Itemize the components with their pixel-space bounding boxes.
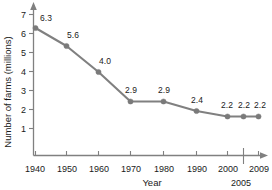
- x-tick-label-2009: 2009: [249, 164, 269, 174]
- x-tick-label-1990: 1990: [187, 164, 207, 174]
- data-point-1940: [33, 25, 38, 30]
- data-label-2009: 2.2: [254, 100, 266, 110]
- y-tick-label-3: 3: [21, 86, 26, 96]
- data-point-1960: [96, 69, 101, 74]
- y-tick-label-1: 1: [21, 124, 26, 134]
- data-point-2000: [225, 114, 230, 119]
- farms-line-chart: Number of farms (millions) 7 6 5 4 3 2 1: [0, 0, 272, 190]
- x-tick-label-1970: 1970: [121, 164, 141, 174]
- x-axis-title: Year: [142, 177, 161, 188]
- x-tick-label-2000: 2000: [218, 164, 238, 174]
- data-point-1950: [64, 43, 69, 48]
- x-tick-label-1960: 1960: [89, 164, 109, 174]
- data-point-1990: [194, 108, 199, 113]
- x-tick-label-2005: 2005: [231, 178, 251, 188]
- data-point-labels: 6.3 5.6 4.0 2.9 2.9 2.4 2.2 2.2 2.2: [40, 13, 266, 110]
- y-tick-label-5: 5: [21, 48, 26, 58]
- y-tick-label-2: 2: [21, 105, 26, 115]
- data-label-1950: 5.6: [67, 30, 79, 40]
- x-tick-label-1980: 1980: [154, 164, 174, 174]
- y-axis-title: Number of farms (millions): [2, 36, 13, 147]
- data-label-2005: 2.2: [238, 100, 250, 110]
- data-point-2005: [241, 114, 246, 119]
- y-tick-labels: 7 6 5 4 3 2 1: [21, 10, 26, 134]
- y-axis: [30, 2, 37, 156]
- y-tick-label-6: 6: [21, 29, 26, 39]
- data-point-2009: [256, 114, 261, 119]
- x-axis: [34, 152, 269, 159]
- data-point-1970: [128, 99, 133, 104]
- data-label-1990: 2.4: [191, 95, 203, 105]
- chart-canvas: Number of farms (millions) 7 6 5 4 3 2 1: [0, 0, 272, 190]
- y-tick-marks: [29, 15, 34, 129]
- data-label-1970: 2.9: [125, 85, 137, 95]
- data-label-2000: 2.2: [221, 100, 233, 110]
- data-label-1980: 2.9: [158, 85, 170, 95]
- y-tick-label-4: 4: [21, 67, 26, 77]
- y-tick-label-7: 7: [21, 10, 26, 20]
- data-point-1980: [161, 99, 166, 104]
- x-axis-arrow-icon: [260, 152, 268, 159]
- data-label-1940: 6.3: [40, 13, 52, 23]
- x-tick-label-1940: 1940: [25, 164, 45, 174]
- y-axis-arrow-icon: [30, 2, 37, 10]
- x-tick-label-1950: 1950: [57, 164, 77, 174]
- data-label-1960: 4.0: [99, 56, 111, 66]
